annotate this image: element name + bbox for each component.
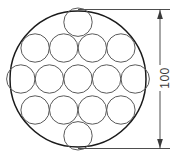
packed-circle [50,34,78,62]
packed-circle [78,96,106,124]
technical-drawing-canvas [0,0,178,160]
dimension-label-100: 100 [159,65,171,91]
circle-packing-diagram: 100 [0,0,178,160]
packed-circle [21,34,49,62]
packed-circles-group [7,8,150,150]
arrow-head-top-icon [157,10,163,19]
outer-boundary-circle [10,11,146,147]
packed-circle [50,96,78,124]
packed-circle [107,96,135,124]
arrow-head-bottom-icon [157,139,163,148]
packed-circle [35,65,63,93]
packed-circle [64,65,92,93]
packed-circle [78,34,106,62]
packed-circle [121,65,149,93]
packed-circle [21,96,49,124]
packed-circle [107,34,135,62]
packed-circle [64,122,92,150]
packed-circle [92,65,120,93]
packed-circle [7,65,35,93]
packed-circle [64,8,92,36]
